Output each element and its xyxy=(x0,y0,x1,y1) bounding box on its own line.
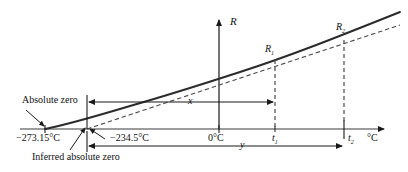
absolute-zero-label: Absolute zero xyxy=(22,95,78,105)
inferred-absolute-zero-label: Inferred absolute zero xyxy=(32,152,120,162)
absolute-zero-value: −273.15°C xyxy=(16,133,60,143)
resistance-curve xyxy=(45,12,400,129)
diagram-svg xyxy=(0,0,408,172)
zero-celsius-tick-label: 0°C xyxy=(208,133,224,143)
temperature-1-subscript: 1 xyxy=(275,139,278,145)
resistance-2-label: R2 xyxy=(336,22,345,34)
inferred-linear-line xyxy=(87,25,400,129)
x-axis-label: °C xyxy=(367,133,378,143)
leader-minus-234 xyxy=(90,129,105,139)
resistance-1-subscript: 1 xyxy=(271,50,274,56)
leader-absolute-zero xyxy=(26,110,44,126)
figure-canvas: R °C Absolute zero −273.15°C −234.5°C In… xyxy=(0,0,408,172)
resistance-1-label: R1 xyxy=(265,44,274,56)
resistance-2-subscript: 2 xyxy=(342,28,345,34)
leader-inferred-absolute-zero xyxy=(70,128,85,150)
span-y-label: y xyxy=(240,140,244,150)
y-axis-label: R xyxy=(230,16,237,27)
temperature-2-label: t2 xyxy=(348,133,354,145)
temperature-1-label: t1 xyxy=(272,133,278,145)
temperature-2-subscript: 2 xyxy=(351,139,354,145)
inferred-absolute-zero-value: −234.5°C xyxy=(110,133,149,143)
span-x-label: x xyxy=(188,96,192,106)
